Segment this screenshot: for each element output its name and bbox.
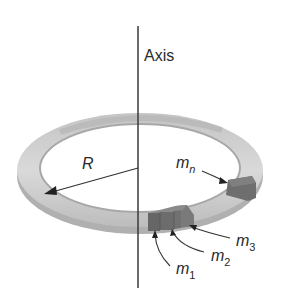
mass-label-m3: m3 bbox=[236, 232, 255, 253]
mass-label-m2: m2 bbox=[211, 247, 230, 268]
arrow-m2 bbox=[173, 232, 204, 252]
axis-label: Axis bbox=[144, 47, 174, 64]
mass-label-m1: m1 bbox=[176, 260, 195, 281]
ring-top bbox=[17, 113, 263, 227]
radius-label: R bbox=[82, 155, 94, 172]
ring-diagram: Axis R m1 bbox=[0, 0, 285, 298]
mass-m1-block bbox=[148, 213, 160, 231]
ring bbox=[17, 113, 263, 234]
arrow-m3 bbox=[192, 227, 230, 238]
arrow-m1 bbox=[155, 234, 170, 266]
mass-m3-face bbox=[174, 210, 181, 229]
mass-m2-block bbox=[160, 212, 174, 230]
